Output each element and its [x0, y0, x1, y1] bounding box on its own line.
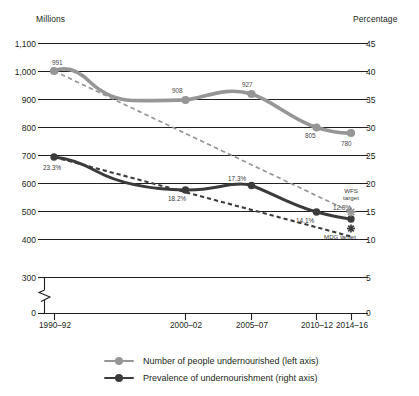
datalabel-prevalence-1990: 23.3% [43, 165, 61, 172]
axis-break-panel [38, 278, 368, 321]
wfs-target-label-line2: target [330, 194, 372, 201]
datalabel-number-1990: 991 [52, 60, 63, 67]
legend-item-number: Number of people undernourished (left ax… [0, 352, 419, 369]
legend-swatch-prevalence-line-icon [104, 373, 134, 382]
datalabel-number-2000: 908 [172, 88, 183, 95]
wfs-target-trendline [54, 71, 351, 212]
mdg-target-marker [347, 225, 355, 233]
datalabel-number-2010: 805 [305, 133, 316, 140]
chart-figure: Millions Percentage 1,100 1,000 900 800 … [0, 0, 419, 396]
prevalence-undernourishment-line [54, 157, 351, 219]
x-tick-2000-02: 2000–02 [158, 322, 214, 330]
datalabel-number-2005: 927 [242, 82, 253, 89]
datalabel-number-2014: 780 [341, 141, 352, 148]
legend-label-number: Number of people undernourished (left ax… [143, 356, 319, 366]
datalabel-prevalence-2000: 18.2% [168, 196, 186, 203]
number-undernourished-line [54, 69, 351, 133]
legend-item-prevalence: Prevalence of undernourishment (right ax… [0, 369, 419, 386]
chart-legend: Number of people undernourished (left ax… [0, 352, 419, 386]
mdg-target-label: MDG target [307, 233, 373, 240]
legend-label-prevalence: Prevalence of undernourishment (right ax… [143, 373, 318, 383]
x-tick-2005-07: 2005–07 [224, 322, 280, 330]
datalabel-prevalence-2010: 14.1% [296, 218, 314, 225]
legend-swatch-number-line-icon [104, 356, 134, 365]
x-tick-1990-92: 1990–92 [27, 322, 83, 330]
datalabel-prevalence-2005: 17.3% [228, 176, 246, 183]
x-tick-2014-16: 2014–16 [324, 322, 380, 330]
datalabel-prevalence-2014: 12.9% [333, 205, 351, 212]
